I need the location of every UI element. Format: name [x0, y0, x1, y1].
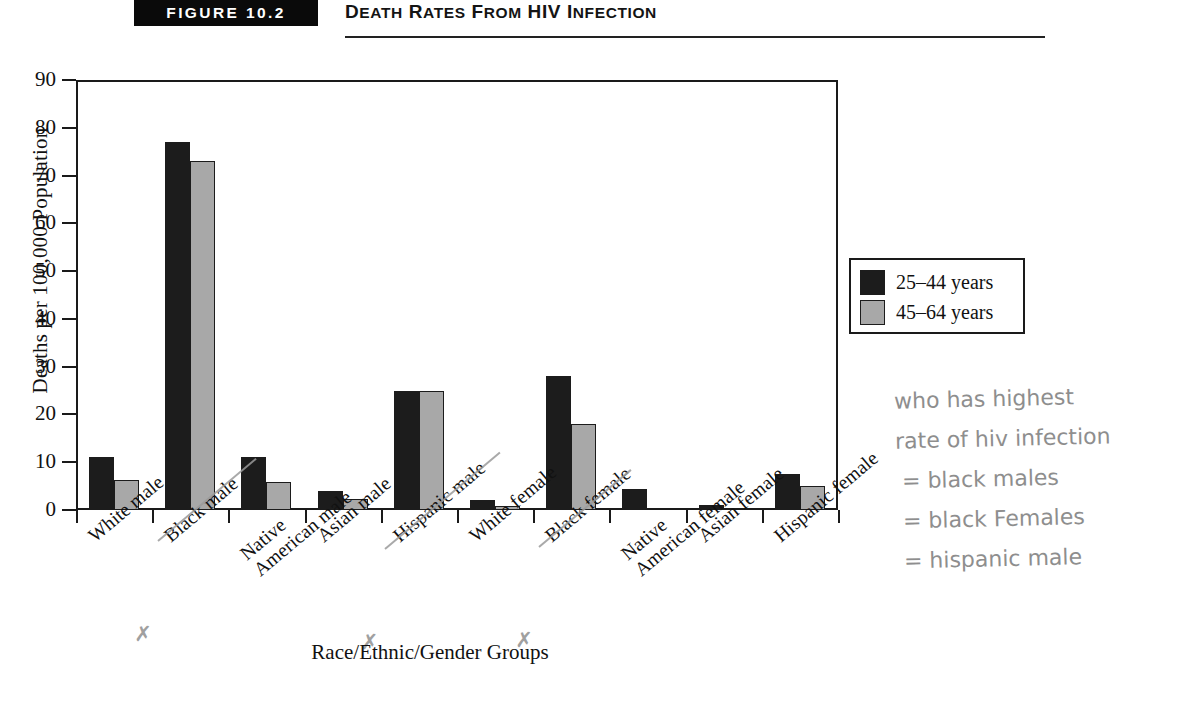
handwritten-annotation: who has highestrate of hiv infection= bl…: [894, 374, 1192, 581]
title-word: HIV: [528, 1, 561, 22]
y-axis-tick-mark: [62, 366, 76, 368]
y-axis-tick-label: 0: [16, 497, 56, 522]
legend-label: 25–44 years: [896, 271, 993, 294]
x-axis-tick-mark: [762, 510, 764, 523]
y-axis-tick-mark: [62, 175, 76, 177]
x-axis-tick-mark: [76, 510, 78, 523]
x-axis-tick-mark: [533, 510, 535, 523]
bar: [394, 391, 419, 510]
title-word: INFECTION: [567, 1, 657, 22]
x-axis-tick-mark: [838, 510, 840, 523]
x-axis-tick-mark: [381, 510, 383, 523]
figure-title: DEATH RATES FROM HIV INFECTION: [345, 1, 657, 23]
bar-group: [457, 80, 533, 510]
y-axis-tick-mark: [62, 79, 76, 81]
y-axis-tick-label: 40: [16, 306, 56, 331]
y-axis-tick-mark: [62, 461, 76, 463]
y-axis-tick-label: 60: [16, 210, 56, 235]
y-axis-tick-mark: [62, 413, 76, 415]
y-axis-tick-mark: [62, 509, 76, 511]
bar-group: [609, 80, 685, 510]
bar-group: [686, 80, 762, 510]
bar-group: [76, 80, 152, 510]
legend-color-swatch: [860, 270, 885, 295]
legend-color-swatch: [860, 300, 885, 325]
y-axis-tick-label: 90: [16, 67, 56, 92]
bar-group: [381, 80, 457, 510]
bar-group: [533, 80, 609, 510]
bar: [622, 489, 647, 511]
y-axis-tick-mark: [62, 127, 76, 129]
bar: [165, 142, 190, 510]
bar: [89, 457, 114, 510]
y-axis-tick-mark: [62, 222, 76, 224]
legend-label: 45–64 years: [896, 301, 993, 324]
y-axis-tick-mark: [62, 318, 76, 320]
bar: [190, 161, 215, 510]
figure-header: FIGURE 10.2 DEATH RATES FROM HIV INFECTI…: [0, 0, 1192, 48]
y-axis-tick-mark: [62, 270, 76, 272]
handwritten-line: = hispanic male: [898, 534, 1192, 581]
y-axis-tick-label: 10: [16, 449, 56, 474]
title-word: FROM: [471, 1, 521, 22]
legend-item: 25–44 years: [860, 267, 1023, 297]
y-axis-tick-label: 50: [16, 258, 56, 283]
x-axis-tick-mark: [152, 510, 154, 523]
figure-number-badge: FIGURE 10.2: [134, 0, 318, 26]
x-axis-tick-mark: [228, 510, 230, 523]
chart-legend: 25–44 years45–64 years: [849, 258, 1025, 334]
bar-group: [762, 80, 838, 510]
bars-layer: [76, 80, 838, 510]
legend-item: 45–64 years: [860, 297, 1023, 327]
bar: [546, 376, 571, 510]
bar-group: [228, 80, 304, 510]
title-divider: [345, 36, 1045, 38]
bar-group: [152, 80, 228, 510]
y-axis-tick-label: 70: [16, 163, 56, 188]
bar-chart: Deaths per 100,000 Population 0102030405…: [0, 48, 860, 707]
x-axis-label: Race/Ethnic/Gender Groups: [0, 640, 860, 665]
y-axis-tick-label: 80: [16, 115, 56, 140]
x-axis-tick-mark: [457, 510, 459, 523]
title-word: DEATH: [345, 1, 403, 22]
x-axis-tick-mark: [609, 510, 611, 523]
y-axis-tick-label: 20: [16, 401, 56, 426]
title-word: RATES: [409, 1, 466, 22]
bar-group: [305, 80, 381, 510]
y-axis-tick-label: 30: [16, 354, 56, 379]
